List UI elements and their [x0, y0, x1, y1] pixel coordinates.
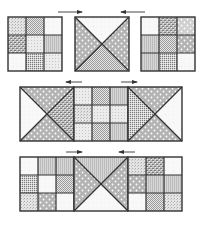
patch-dots: [38, 193, 56, 211]
patch-weave: [146, 157, 164, 175]
patch-dense: [159, 53, 177, 71]
patch-weave: [159, 17, 177, 35]
patch-stripe: [56, 157, 74, 175]
hourglass-block: [74, 157, 128, 211]
patch-stripe: [141, 53, 159, 71]
patch-stipple: [92, 105, 110, 123]
patch-speckle: [128, 157, 146, 175]
patch-stripe: [146, 175, 164, 193]
rows-layer: [8, 12, 195, 211]
patch-weave: [8, 35, 26, 53]
patch-stipple: [74, 87, 92, 105]
patch-stipple: [110, 105, 128, 123]
nine-patch-block: [141, 17, 195, 71]
nine-patch-block: [20, 157, 74, 211]
quilt-assembly-diagram: [0, 0, 204, 226]
patch-plain: [56, 193, 74, 211]
row-3: [20, 152, 182, 211]
patch-stripe: [44, 35, 62, 53]
patch-stripe: [110, 87, 128, 105]
row-2: [20, 82, 182, 141]
patch-dots-light: [177, 17, 195, 35]
patch-speckle: [20, 193, 38, 211]
nine-patch-block: [128, 157, 182, 211]
patch-stripe: [141, 35, 159, 53]
patch-speckle: [8, 17, 26, 35]
patch-plain: [38, 175, 56, 193]
hourglass-block: [75, 17, 129, 71]
patch-stripe: [164, 175, 182, 193]
row-1: [8, 12, 195, 71]
hourglass-block: [128, 87, 182, 141]
patch-stripe: [38, 157, 56, 175]
patch-speckle: [74, 105, 92, 123]
hourglass-block: [20, 87, 74, 141]
patch-check: [146, 193, 164, 211]
patch-dots: [177, 35, 195, 53]
patch-stipple: [26, 35, 44, 53]
patch-plain: [44, 17, 62, 35]
nine-patch-block: [8, 17, 62, 71]
patch-plain: [141, 17, 159, 35]
patch-plain: [8, 53, 26, 71]
patch-plain: [177, 53, 195, 71]
patch-dense: [20, 175, 38, 193]
patch-speckle: [164, 193, 182, 211]
patch-plain: [128, 193, 146, 211]
patch-check: [92, 87, 110, 105]
patch-stripe: [110, 123, 128, 141]
patch-plain: [164, 157, 182, 175]
patch-check: [26, 17, 44, 35]
patch-dots: [128, 175, 146, 193]
patch-stipple: [74, 123, 92, 141]
patch-check: [92, 123, 110, 141]
patch-dense: [26, 53, 44, 71]
patch-check: [159, 35, 177, 53]
patch-stipple: [44, 53, 62, 71]
patch-check: [56, 175, 74, 193]
patch-plain: [20, 157, 38, 175]
nine-patch-block: [74, 87, 128, 141]
